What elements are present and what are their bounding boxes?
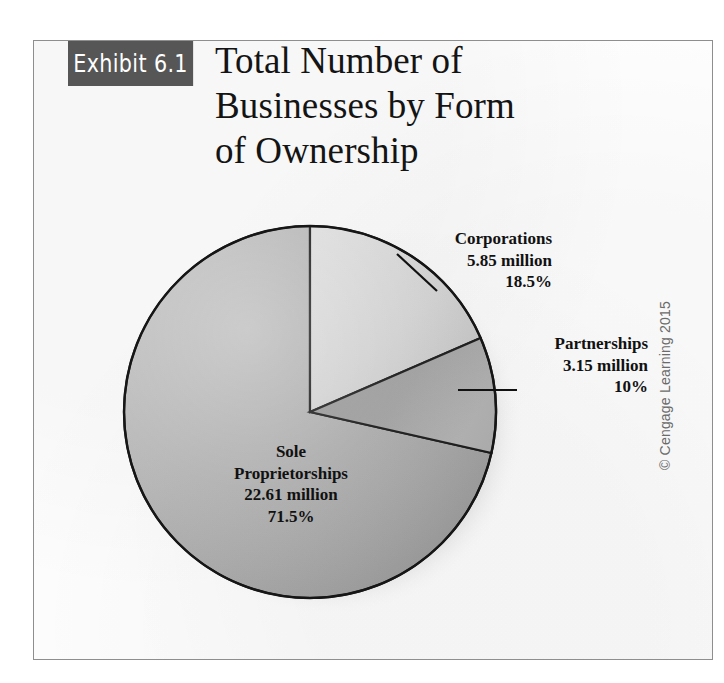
page-title-line-2: Businesses by Form <box>215 83 545 128</box>
pie-label-partnerships-percent: 10% <box>498 376 648 398</box>
pie-label-partnerships-name: Partnerships <box>498 333 648 355</box>
page-title: Total Number of Businesses by Form of Ow… <box>215 38 545 173</box>
pie-label-sole-proprietorships: Sole Proprietorships 22.61 million 71.5% <box>196 441 386 527</box>
pie-label-corporations-value: 5.85 million <box>400 250 552 272</box>
pie-label-partnerships: Partnerships 3.15 million 10% <box>498 333 648 398</box>
pie-label-partnerships-value: 3.15 million <box>498 355 648 377</box>
pie-label-sole-percent: 71.5% <box>196 506 386 528</box>
pie-label-sole-name-line-2: Proprietorships <box>196 463 386 485</box>
pie-label-sole-value: 22.61 million <box>196 484 386 506</box>
exhibit-number-badge: Exhibit 6.1 <box>68 41 193 86</box>
pie-label-corporations: Corporations 5.85 million 18.5% <box>400 228 552 293</box>
copyright-notice: © Cengage Learning 2015 <box>657 301 673 470</box>
pie-label-corporations-name: Corporations <box>400 228 552 250</box>
pie-label-sole-name-line-1: Sole <box>196 441 386 463</box>
page-title-line-1: Total Number of <box>215 38 545 83</box>
page-title-line-3: of Ownership <box>215 128 545 173</box>
pie-label-corporations-percent: 18.5% <box>400 271 552 293</box>
